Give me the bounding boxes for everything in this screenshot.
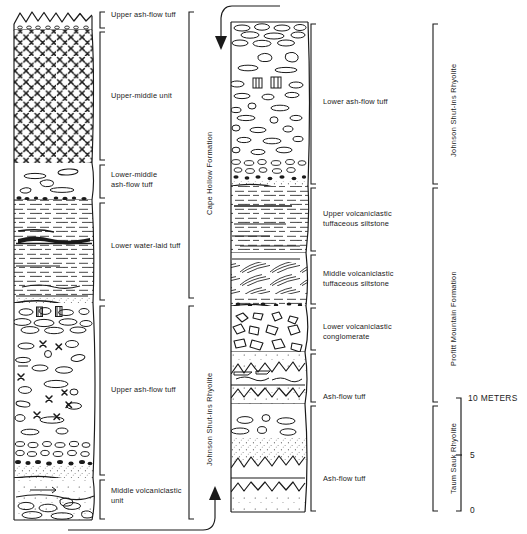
right-unit-label-ash-flow-tuff-lower: Ash-flow tuff <box>323 474 415 484</box>
right-formation-label-johnson-shut-ins: Johnson Shut-ins Rhyolite <box>449 64 458 157</box>
right-unit-label-lower-volcaniclastic-conglomerate: Lower volcaniclastic conglomerate <box>323 322 415 342</box>
left-unit-label-upper-ash-flow-tuff-lower: Upper ash-flow tuff <box>111 385 197 395</box>
right-formation-brackets <box>433 24 438 511</box>
left-unit-label-upper-middle-unit: Upper-middle unit <box>111 91 193 101</box>
scale-bar-bottom-label: 0 <box>470 505 475 515</box>
right-unit-brackets <box>311 24 316 511</box>
left-unit-label-lower-water-laid-tuff: Lower water-laid tuff <box>111 241 197 251</box>
left-unit-brackets <box>100 12 105 519</box>
left-column-lithology <box>12 12 98 522</box>
right-unit-label-middle-volcaniclastic-siltstone: Middle volcaniclastic tuffaceous siltsto… <box>323 269 415 289</box>
column-graphics <box>0 0 527 534</box>
right-unit-label-lower-ash-flow-tuff: Lower ash-flow tuff <box>323 97 415 107</box>
left-formation-label-johnson-shut-ins: Johnson Shut-ins Rhyolite <box>205 373 214 466</box>
left-formation-brackets <box>189 12 194 519</box>
left-unit-label-middle-volcaniclastic-unit: Middle volcaniclastic unit <box>111 486 197 506</box>
right-unit-label-ash-flow-tuff-upper: Ash-flow tuff <box>323 392 415 402</box>
right-unit-label-upper-volcaniclastic-siltstone: Upper volcaniclastic tuffaceous siltston… <box>323 209 415 229</box>
scale-bar-top-label: 10 METERS <box>468 393 518 403</box>
left-unit-label-lower-middle-ash-flow-tuff: Lower-middle ash-flow tuff <box>111 170 193 190</box>
right-column-lithology <box>229 22 311 514</box>
right-formation-label-profitt-mountain: Profitt Mountain Formation <box>449 271 458 366</box>
right-formation-label-taum-sauk: Taum Sauk Rhyolite <box>449 423 458 494</box>
stratigraphic-figure: Upper ash-flow tuff Upper-middle unit Lo… <box>0 0 527 534</box>
scale-bar-mid-label: 5 <box>470 450 475 460</box>
left-formation-label-cape-hollow: Cape Hollow Formation <box>205 131 214 215</box>
left-unit-label-upper-ash-flow-tuff: Upper ash-flow tuff <box>111 10 193 20</box>
